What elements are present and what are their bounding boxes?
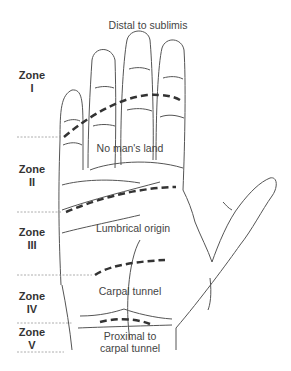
no-mans-land-label: No man's land	[90, 142, 170, 154]
zone-numeral: I	[14, 82, 50, 95]
distal-to-sublimis-label: Distal to sublimis	[88, 19, 208, 31]
zone-3-label: ZoneIII	[14, 226, 50, 252]
zone-numeral: II	[14, 176, 50, 189]
zone-word: Zone	[14, 290, 50, 303]
zone-word: Zone	[14, 226, 50, 239]
zone-5-label: ZoneV	[14, 326, 50, 352]
zone-4-label: ZoneIV	[14, 290, 50, 316]
proximal-line-2: carpal tunnel	[92, 342, 168, 354]
zone-numeral: V	[14, 339, 50, 352]
carpal-tunnel-label: Carpal tunnel	[95, 285, 165, 297]
zone-2-label: ZoneII	[14, 163, 50, 189]
lumbrical-origin-label: Lumbrical origin	[88, 222, 178, 234]
zone-word: Zone	[14, 69, 50, 82]
zone-word: Zone	[14, 326, 50, 339]
zone-numeral: III	[14, 239, 50, 252]
zone-1-label: ZoneI	[14, 69, 50, 95]
proximal-line-1: Proximal to	[92, 330, 168, 342]
proximal-to-carpal-tunnel-label: Proximal tocarpal tunnel	[92, 330, 168, 354]
zone-word: Zone	[14, 163, 50, 176]
zone-numeral: IV	[14, 303, 50, 316]
